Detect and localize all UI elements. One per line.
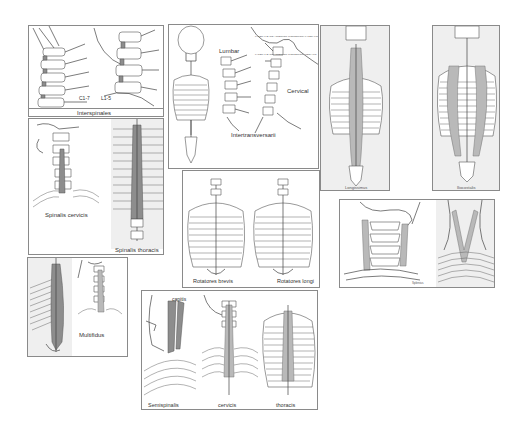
rotatores-illustration: Rotatores brevis Rotatores longi	[183, 171, 320, 288]
label-lumbar: Lumbar	[219, 48, 239, 54]
panel-intertransversarii: Lumbar LATERAL BAND ANTERIOR (POSTERIOR)…	[168, 24, 319, 169]
lumbar-spine	[221, 55, 251, 131]
semispinalis-illustration: capitis Semispinalis cervicis thoracis	[142, 291, 318, 410]
panel-interspinales: C1-7 L1-5 Interspinales	[28, 25, 164, 117]
label-capitis: capitis	[172, 296, 187, 302]
label-thoracis: thoracis	[276, 402, 296, 408]
skeleton-figure	[173, 26, 209, 163]
panel-splenius: Splenius	[339, 199, 495, 288]
panel-multifidus: Multifidus	[27, 257, 128, 357]
caption-splenius: Splenius	[412, 282, 424, 285]
spinalis-cervicis-figure	[33, 124, 99, 207]
iliocostalis-illustration	[433, 26, 500, 191]
label-cervical: Cervical	[287, 88, 309, 94]
splenius-illustration	[340, 200, 495, 288]
semispinalis-cervicis-figure	[202, 295, 258, 395]
label-spinalis-thoracis: Spinalis thoracis	[115, 247, 159, 253]
caption-interspinales: Interspinales	[77, 110, 111, 116]
lumbar-vertebrae	[104, 30, 159, 106]
cervical-spine	[251, 27, 319, 133]
panel-longissimus: Longissimus	[320, 25, 390, 191]
panel-spinalis: Spinalis cervicis Spinalis thoracis	[28, 118, 164, 255]
label-spinalis-cervicis: Spinalis cervicis	[45, 212, 88, 218]
panel-rotatores: Rotatores brevis Rotatores longi	[182, 170, 320, 288]
caption-iliocostalis: Iliocostalis	[457, 186, 475, 190]
semispinalis-capitis-figure: capitis	[144, 295, 196, 395]
panel-semispinalis: capitis Semispinalis cervicis thoracis	[141, 290, 318, 410]
caption-divider	[29, 108, 164, 109]
rotatores-brevis-figure	[188, 179, 245, 275]
panel-iliocostalis: Iliocostalis	[432, 25, 500, 191]
label-l1-5: L1-5	[101, 96, 111, 101]
label-rotatores-brevis: Rotatores brevis	[193, 278, 233, 284]
spinalis-illustration: Spinalis cervicis Spinalis thoracis	[29, 119, 164, 255]
annotation-lateralis: LATERAL BAND ANTERIOR (POSTERIOR) LATERA…	[255, 35, 318, 38]
longissimus-illustration	[321, 26, 390, 191]
caption-longissimus: Longissimus	[345, 186, 367, 190]
caption-intertransversarii: Intertransversarii	[231, 132, 276, 138]
multifidus-illustration	[28, 258, 128, 357]
caption-multifidus: Multifidus	[79, 332, 104, 338]
intertransversarii-illustration: Lumbar LATERAL BAND ANTERIOR (POSTERIOR)…	[169, 25, 319, 169]
label-c1-7: C1-7	[79, 96, 90, 101]
rotatores-longi-figure	[254, 179, 313, 275]
label-cervicis: cervicis	[218, 402, 237, 408]
splenius-lateral-figure	[344, 202, 420, 280]
semispinalis-thoracis-figure	[263, 305, 315, 395]
annotation-medialis: LATERAL BAND ANTERIOR (POSTERIOR) MEDIAL…	[255, 53, 317, 56]
interspinales-illustration	[29, 26, 164, 117]
label-semispinalis: Semispinalis	[148, 402, 179, 408]
splenius-posterior-figure	[436, 200, 495, 288]
spinalis-thoracis-figure	[111, 119, 164, 249]
label-rotatores-longi: Rotatores longi	[277, 278, 314, 284]
